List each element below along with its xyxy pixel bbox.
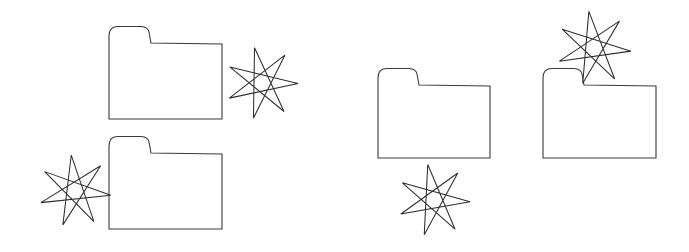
image-canvas: Folder 1Star 1Folder 2Star 2Folder 3Star… — [0, 0, 689, 252]
line-art-scene: Folder 1Star 1Folder 2Star 2Folder 3Star… — [0, 0, 689, 252]
